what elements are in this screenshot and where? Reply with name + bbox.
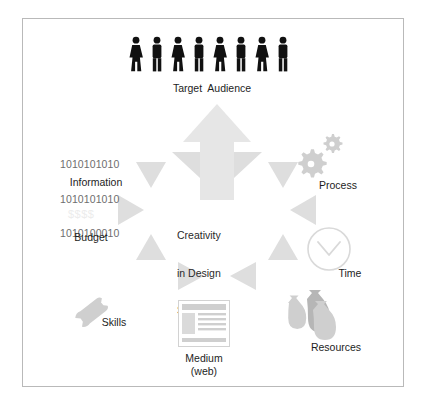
triangle-in-se — [268, 234, 298, 260]
money-bag-right — [313, 301, 336, 340]
node-process — [292, 128, 354, 184]
triangle-feed-left — [172, 152, 200, 178]
web-footer-bar — [182, 338, 226, 342]
web-page-icon — [178, 300, 230, 347]
label-time: Time — [320, 267, 380, 279]
money-bags-icon — [280, 290, 342, 342]
binary-line-2: 1010101010 — [60, 194, 119, 206]
label-budget: Budget — [48, 231, 134, 243]
triangle-in-e — [290, 195, 316, 225]
web-sidebar-block — [182, 313, 195, 334]
label-medium-line-1: Medium — [175, 352, 233, 364]
label-process: Process — [298, 179, 378, 191]
center-text-line-2: in Design — [177, 267, 221, 280]
triangle-in-w — [118, 195, 144, 225]
diagram-canvas: Target Audience — [0, 0, 429, 411]
gears-icon — [292, 128, 354, 184]
triangle-in-sw — [136, 234, 166, 260]
node-target-audience — [127, 36, 299, 78]
label-skills: Skills — [74, 316, 154, 328]
node-medium — [178, 300, 230, 347]
web-header-bar — [182, 304, 226, 310]
money-bag-left — [288, 295, 306, 329]
center-text-line-1: Creativity — [177, 229, 221, 242]
people-group-icon — [127, 36, 299, 78]
node-time — [306, 226, 352, 272]
label-medium-line-2: (web) — [175, 365, 233, 377]
label-resources: Resources — [288, 341, 384, 353]
clock-icon — [306, 226, 352, 272]
binary-digits-icon: 1010101010 1010101010 1010100010 — [60, 136, 119, 263]
binary-line-1: 1010101010 — [60, 159, 119, 171]
label-information: Information — [46, 176, 146, 188]
clock-hands — [318, 242, 340, 255]
triangle-feed-right — [234, 152, 262, 178]
triangle-in-s-right — [230, 262, 256, 290]
dollar-signs-icon: $$$$ — [68, 208, 94, 220]
label-target-audience: Target Audience — [147, 82, 277, 94]
node-resources — [280, 290, 342, 342]
